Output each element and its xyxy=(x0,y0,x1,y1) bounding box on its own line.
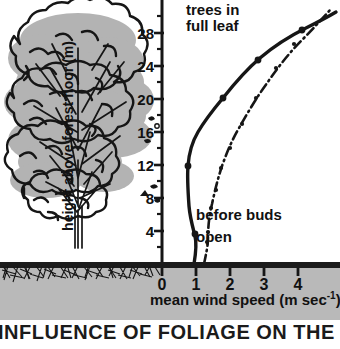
annotation-trees-in-full-leaf: trees in full leaf xyxy=(186,2,239,34)
y-tick-label-28: 28 xyxy=(122,25,154,42)
annotation-line-2: open xyxy=(196,229,282,245)
annotation-line-1: before buds xyxy=(196,207,282,223)
figure-caption: INFLUENCE OF FOLIAGE ON THE xyxy=(0,321,335,344)
x-axis-title-suffix: ) xyxy=(336,291,340,308)
y-tick-label-20: 20 xyxy=(122,91,154,108)
y-tick-label-16: 16 xyxy=(122,124,154,141)
y-tick-label-24: 24 xyxy=(122,58,154,75)
figure-caption-band: INFLUENCE OF FOLIAGE ON THE xyxy=(0,320,340,349)
x-axis-title: mean wind speed (m sec-1) xyxy=(150,290,340,308)
y-tick-label-8: 8 xyxy=(122,190,154,207)
root-hatch-svg xyxy=(0,266,162,288)
figure-root: 28 24 20 16 12 8 4 height above forest f… xyxy=(0,0,340,349)
y-axis-title: height above forest floor (m) xyxy=(60,5,76,267)
annotation-line-2: full leaf xyxy=(186,18,239,34)
x-axis-title-main: mean wind speed (m sec xyxy=(150,291,327,308)
soil-root-texture xyxy=(0,266,162,288)
annotation-line-1: trees in xyxy=(186,2,239,18)
y-tick-label-4: 4 xyxy=(122,223,154,240)
x-axis-title-exponent: -1 xyxy=(327,290,336,301)
y-tick-label-12: 12 xyxy=(122,157,154,174)
annotation-before-buds-open: before buds open xyxy=(196,207,282,245)
